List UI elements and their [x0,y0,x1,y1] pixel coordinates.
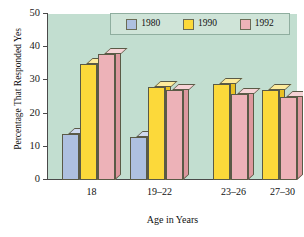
bar-1992-27–30 [280,97,297,180]
bar-face [62,134,79,180]
y-axis-tick-label: 0 [18,174,40,185]
bar-side-face [248,88,254,180]
bar-face [148,87,165,180]
x-axis-category-label: 19–22 [130,186,190,197]
x-axis-title: Age in Years [48,214,297,225]
bar-side-face [115,48,121,180]
bar-1990-23–26 [213,84,230,180]
bar-1992-23–26 [231,94,248,180]
bar-1990-18 [80,64,97,180]
bar-face [98,54,115,180]
bar-face [213,84,230,180]
bar-face [262,90,279,180]
bar-face [166,90,183,180]
bar-side-face [183,85,189,180]
bar-1980-18 [62,134,79,180]
bar-1980-19–22 [130,137,147,180]
y-axis-title: Percentage That Responded Yes [13,19,23,159]
bar-1992-18 [98,54,115,180]
plot-area [48,14,297,180]
bar-face [80,64,97,180]
y-axis-tick-label: 50 [18,8,40,19]
bar-face [280,97,297,180]
bar-chart: 01020304050 Percentage That Responded Ye… [0,0,303,237]
bar-face [231,94,248,180]
bar-1990-27–30 [262,90,279,180]
bar-face [130,137,147,180]
bar-side-face [297,92,303,180]
bar-1990-19–22 [148,87,165,180]
bar-1992-19–22 [166,90,183,180]
x-axis-category-label: 18 [62,186,122,197]
x-axis-category-label: 27–30 [253,186,304,197]
